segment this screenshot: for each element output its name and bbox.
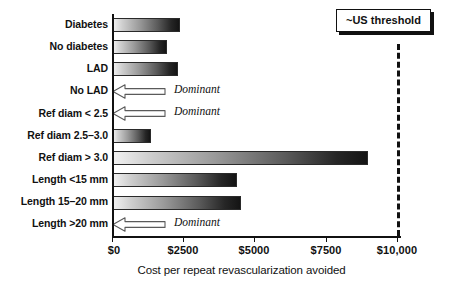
- x-tick-2500: [183, 236, 184, 242]
- category-axis-labels: Diabetes No diabetes LAD No LAD Ref diam…: [0, 14, 108, 236]
- bar-length-lt-15: [112, 173, 237, 187]
- x-tick-label-2500: $2500: [167, 244, 198, 256]
- bar-ref-diam-gt-3: [112, 151, 368, 165]
- bar-diabetes: [112, 18, 180, 32]
- category-label-ref-diam-2-5-3: Ref diam 2.5–3.0: [0, 129, 108, 141]
- bar-no-diabetes: [112, 40, 167, 54]
- cost-effectiveness-bar-chart: ~US threshold Diabetes No diabetes LAD N…: [0, 0, 453, 293]
- x-tick-5000: [254, 236, 255, 242]
- category-label-no-diabetes: No diabetes: [0, 40, 108, 52]
- category-label-lad: LAD: [0, 62, 108, 74]
- x-axis-title: Cost per repeat revascularization avoide…: [137, 264, 345, 276]
- bar-length-15-20: [112, 196, 241, 210]
- x-tick-7500: [326, 236, 327, 242]
- category-label-ref-diam-lt-2-5: Ref diam < 2.5: [0, 107, 108, 119]
- dominant-arrow-no-lad: [112, 84, 166, 99]
- x-tick-label-5000: $5000: [238, 244, 269, 256]
- dominant-label-length-gt-20: Dominant: [174, 216, 220, 228]
- dominant-arrow-length-gt-20: [112, 217, 166, 232]
- plot-area: Dominant Dominant: [112, 14, 400, 236]
- dominant-label-ref-diam-lt-2-5: Dominant: [174, 105, 220, 117]
- category-label-length-15-20: Length 15–20 mm: [0, 195, 108, 207]
- x-axis-line: [112, 236, 401, 238]
- x-tick-0: [112, 236, 113, 242]
- bar-lad: [112, 62, 178, 76]
- x-tick-label-7500: $7500: [310, 244, 341, 256]
- category-label-diabetes: Diabetes: [0, 18, 108, 30]
- dominant-label-no-lad: Dominant: [174, 83, 220, 95]
- dominant-arrow-ref-diam-lt-2-5: [112, 106, 166, 121]
- category-label-no-lad: No LAD: [0, 84, 108, 96]
- x-axis-title-wrap: Cost per repeat revascularization avoide…: [0, 264, 453, 276]
- x-tick-10000: [397, 236, 398, 242]
- category-label-length-lt-15: Length <15 mm: [0, 173, 108, 185]
- y-axis-line: [112, 14, 114, 236]
- category-label-ref-diam-gt-3: Ref diam > 3.0: [0, 151, 108, 163]
- x-tick-label-0: $0: [108, 244, 120, 256]
- category-label-length-gt-20: Length >20 mm: [0, 217, 108, 229]
- bar-ref-diam-2-5-3: [112, 129, 151, 143]
- x-tick-label-10000: $10,000: [377, 244, 417, 256]
